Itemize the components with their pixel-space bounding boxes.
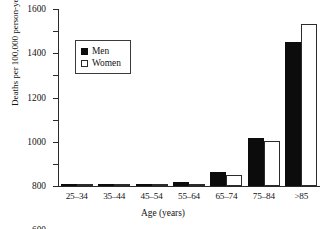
- bar-group: [133, 184, 170, 186]
- bar-women: [189, 184, 205, 186]
- y-axis-tick-label: 1600: [27, 4, 46, 14]
- bar-women: [264, 141, 280, 186]
- y-axis-tick: 1600: [53, 9, 58, 10]
- x-axis-tick-label: >85: [294, 191, 308, 201]
- bar-men: [98, 184, 114, 186]
- legend-item-women: Women: [81, 57, 121, 69]
- y-axis-tick: 400: [53, 142, 58, 143]
- bar-women: [152, 184, 168, 186]
- legend-label-men: Men: [92, 46, 109, 56]
- bar-group: [283, 24, 320, 186]
- bar-chart: Deaths per 100,000 person-years 02004006…: [0, 0, 326, 229]
- y-axis-tick-label: 1400: [27, 48, 46, 58]
- legend-label-women: Women: [92, 58, 121, 68]
- y-axis-tick: 800: [53, 98, 58, 99]
- x-axis-tick-label: 55–64: [178, 191, 200, 201]
- x-axis-tick-label: 35–44: [103, 191, 125, 201]
- y-axis-tick: 600: [53, 120, 58, 121]
- x-axis-tick-label: 45–54: [141, 191, 163, 201]
- bar-group: [245, 138, 282, 186]
- x-axis-tick-label: 65–74: [215, 191, 237, 201]
- x-axis-tick-label: 25–34: [66, 191, 88, 201]
- bar-men: [285, 42, 301, 186]
- x-axis-line: [58, 186, 320, 187]
- bar-group: [58, 184, 95, 186]
- legend-item-men: Men: [81, 45, 121, 57]
- bar-group: [170, 182, 207, 186]
- y-axis-tick-label: 800: [32, 181, 46, 191]
- legend-swatch-women-icon: [81, 60, 88, 67]
- bar-men: [248, 138, 264, 186]
- y-axis-tick-label: 600: [32, 225, 46, 229]
- plot-area: 02004006008001000120014001600: [58, 9, 320, 186]
- bar-men: [210, 172, 226, 186]
- y-axis-tick-label: 1000: [27, 137, 46, 147]
- bar-women: [301, 24, 317, 186]
- bar-group: [208, 172, 245, 186]
- x-axis-title: Age (years): [0, 208, 326, 218]
- bar-group: [95, 184, 132, 186]
- y-axis-title: Deaths per 100,000 person-years: [10, 0, 20, 132]
- bar-men: [173, 182, 189, 186]
- bar-women: [77, 184, 93, 186]
- y-axis-tick: 1200: [53, 53, 58, 54]
- bar-women: [114, 184, 130, 186]
- x-axis-tick-label: 75–84: [253, 191, 275, 201]
- bar-women: [226, 175, 242, 186]
- bar-men: [61, 184, 77, 186]
- y-axis-tick: 1400: [53, 31, 58, 32]
- bar-men: [136, 184, 152, 186]
- legend: Men Women: [75, 40, 131, 74]
- legend-swatch-men-icon: [81, 48, 88, 55]
- y-axis-tick-label: 1200: [27, 93, 46, 103]
- y-axis-tick: 200: [53, 164, 58, 165]
- y-axis-tick: 1000: [53, 75, 58, 76]
- y-axis-tick: 0: [53, 186, 58, 187]
